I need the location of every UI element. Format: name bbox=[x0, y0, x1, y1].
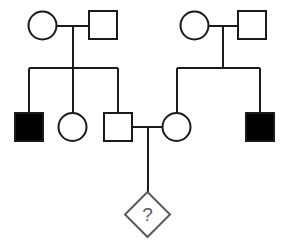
mating-line-i-3-i-4 bbox=[209, 26, 239, 69]
proband-question-mark-label: ? bbox=[142, 204, 153, 225]
generation-2-group bbox=[15, 113, 274, 192]
male-symbol-i-2[interactable] bbox=[89, 11, 117, 39]
male-symbol-i-4[interactable] bbox=[238, 11, 266, 39]
affected-male-symbol-ii-5[interactable] bbox=[246, 113, 274, 141]
female-symbol-ii-2[interactable] bbox=[59, 113, 87, 141]
mating-line-ii-3-ii-4 bbox=[132, 127, 163, 192]
sibship-line-right bbox=[177, 68, 261, 113]
generation-1-group bbox=[29, 11, 267, 68]
pedigree-svg-canvas: ? bbox=[0, 0, 290, 241]
affected-male-symbol-ii-1[interactable] bbox=[15, 113, 43, 141]
female-symbol-i-1[interactable] bbox=[29, 12, 57, 40]
generation-3-group: ? bbox=[125, 192, 170, 237]
female-symbol-ii-4[interactable] bbox=[163, 113, 191, 141]
male-symbol-ii-3[interactable] bbox=[104, 113, 132, 141]
sibship-line-left bbox=[29, 68, 118, 113]
sibship-lines-group bbox=[29, 68, 260, 113]
female-symbol-i-3[interactable] bbox=[181, 12, 209, 40]
mating-line-i-1-i-2 bbox=[57, 26, 90, 69]
pedigree-diagram: ? bbox=[0, 0, 290, 241]
